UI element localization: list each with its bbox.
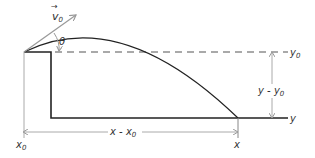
range-label: x - x0 (109, 126, 137, 139)
height-diff-label: y - y0 (257, 85, 285, 98)
projectile-diagram: v0 → θ y0 y y - y0 x - x0 x0 x (0, 0, 315, 158)
y-label: y (289, 113, 297, 124)
cliff-outline (24, 52, 288, 118)
x0-label: x0 (15, 139, 27, 152)
x-label: x (233, 139, 240, 150)
velocity-vector-arrow (24, 15, 76, 52)
vector-arrow-glyph: → (51, 2, 58, 11)
y0-label: y0 (289, 47, 301, 60)
trajectory-curve (24, 38, 238, 118)
angle-label: θ (59, 36, 65, 47)
velocity-label: v0 (52, 10, 64, 24)
